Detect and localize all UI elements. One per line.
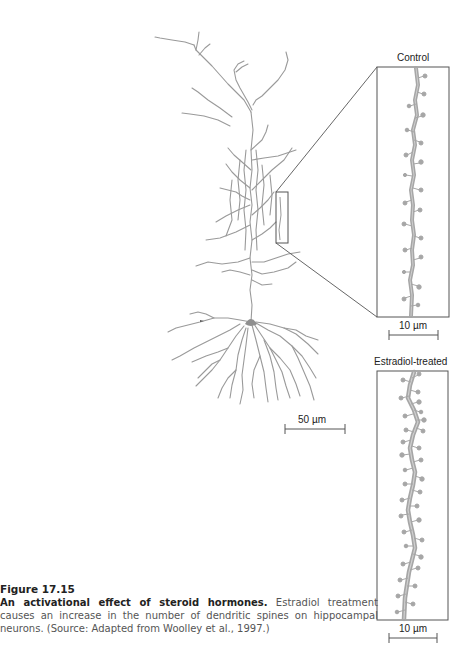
zoom-region-box: [276, 192, 288, 243]
neuron-scale-bar: [285, 424, 345, 434]
figure-caption: Figure 17.15 An activational effect of s…: [0, 583, 378, 635]
neuron-scale-label: 50 µm: [298, 414, 326, 425]
figure-title: An activational effect of steroid hormon…: [0, 597, 268, 608]
estradiol-scale-bar: [389, 633, 437, 643]
control-label: Control: [397, 52, 429, 63]
control-scale-bar: [389, 330, 438, 340]
estradiol-label: Estradiol-treated: [374, 356, 447, 367]
figure-number: Figure 17.15: [0, 583, 378, 596]
estradiol-scale-label: 10 µm: [399, 623, 427, 634]
soma: [245, 319, 257, 326]
figure-illustration: [0, 0, 472, 668]
connector-line-bottom: [276, 243, 377, 317]
control-scale-label: 10 µm: [399, 320, 427, 331]
connector-line-top: [276, 67, 377, 192]
pyramidal-neuron-drawing: [155, 32, 318, 404]
